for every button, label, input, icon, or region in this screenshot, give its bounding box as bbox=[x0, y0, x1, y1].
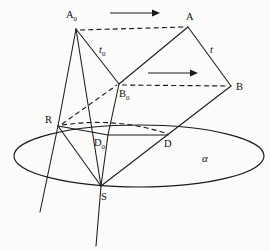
lower-translation-arrow bbox=[148, 70, 198, 77]
label-r: R bbox=[45, 114, 52, 125]
segment-r-s bbox=[58, 126, 101, 186]
segment-b0-b-dashed bbox=[122, 85, 228, 86]
segment-a0-a-dashed bbox=[80, 27, 185, 30]
segment-a-b bbox=[188, 27, 231, 86]
segment-r-d-dashed bbox=[62, 122, 168, 134]
geometry-figure: A0 A B0 B R D0 D S t0 t α bbox=[0, 0, 270, 251]
segment-a0-s bbox=[76, 29, 101, 186]
figure-canvas: A0 A B0 B R D0 D S t0 t α bbox=[0, 0, 270, 251]
segment-a0-b0 bbox=[76, 29, 119, 84]
label-s: S bbox=[101, 191, 107, 202]
label-b0: B0 bbox=[119, 88, 130, 102]
label-t0: t0 bbox=[99, 44, 106, 58]
label-a0: A0 bbox=[66, 9, 78, 23]
label-d: D bbox=[164, 138, 172, 149]
line-b0-d0-s-extended bbox=[96, 84, 119, 246]
upper-translation-arrow bbox=[110, 10, 160, 17]
label-alpha: α bbox=[202, 152, 208, 164]
label-d0: D0 bbox=[94, 137, 106, 151]
label-b: B bbox=[236, 81, 243, 92]
segment-r-b0-dashed bbox=[62, 85, 117, 124]
segment-a-b0 bbox=[119, 27, 188, 84]
segment-b-s bbox=[101, 86, 231, 186]
label-a: A bbox=[186, 11, 194, 22]
label-t: t bbox=[210, 44, 214, 55]
